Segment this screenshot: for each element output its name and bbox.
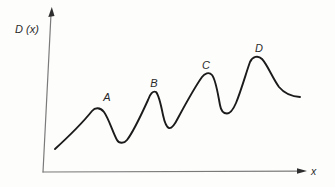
x-axis-line [43,171,299,172]
function-sketch-figure: D (x) x A B C D [0,0,335,187]
peak-label-a: A [102,91,110,103]
peak-label-c: C [202,59,210,71]
y-axis-arrowhead-icon [48,7,54,17]
y-axis-label: D (x) [15,23,39,35]
x-axis-arrowhead-icon [297,168,307,173]
figure-canvas: D (x) x A B C D [0,0,335,187]
x-axis-label: x [310,165,317,177]
y-axis-line [43,14,51,172]
peak-label-d: D [255,42,263,54]
density-curve [55,57,300,149]
peak-label-b: B [150,77,157,89]
